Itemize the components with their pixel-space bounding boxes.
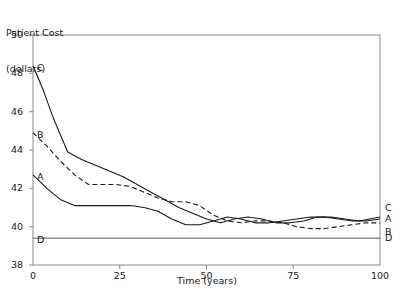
- y-axis-tick-label: 38: [1, 259, 23, 270]
- x-axis-ticks: [120, 265, 294, 269]
- chart-canvas: Patient Cost (dollars) Time (years) 3840…: [0, 0, 414, 291]
- plot-frame: [33, 35, 380, 265]
- y-axis-tick-label: 48: [1, 67, 23, 78]
- y-axis-tick-label: 50: [1, 29, 23, 40]
- x-axis-tick-label: 0: [18, 270, 48, 281]
- series-line-b: [33, 133, 380, 229]
- series-end-label-c: C: [385, 202, 392, 213]
- y-axis-tick-label: 42: [1, 182, 23, 193]
- series-start-label-c: C: [37, 62, 44, 73]
- y-axis-tick-label: 44: [1, 144, 23, 155]
- y-axis-tick-label: 40: [1, 221, 23, 232]
- x-axis-tick-label: 100: [365, 270, 395, 281]
- series-end-label-a: A: [385, 213, 392, 224]
- x-axis-tick-label: 75: [278, 270, 308, 281]
- series-start-label-a: A: [37, 171, 44, 182]
- y-axis-tick-label: 46: [1, 106, 23, 117]
- y-axis-title: Patient Cost (dollars): [6, 3, 63, 99]
- x-axis-tick-label: 25: [105, 270, 135, 281]
- series-start-label-b: B: [37, 129, 44, 140]
- series-start-label-d: D: [37, 234, 44, 245]
- series-line-c: [33, 66, 380, 223]
- data-series-group: [33, 66, 380, 239]
- series-end-label-d: D: [385, 232, 392, 243]
- x-axis-tick-label: 50: [192, 270, 222, 281]
